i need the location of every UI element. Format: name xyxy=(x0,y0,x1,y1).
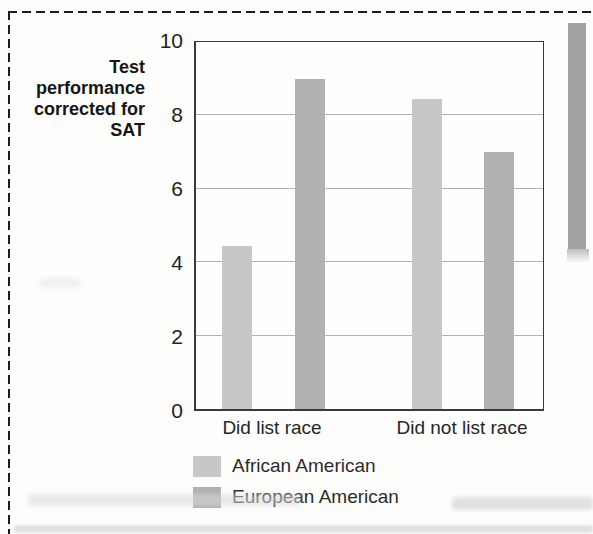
scanned-figure-page: Test performance corrected for SAT 10 8 … xyxy=(0,0,593,534)
figure-dashed-border-top xyxy=(8,11,593,13)
legend: African American European American xyxy=(193,455,399,517)
y-axis-title-line: performance xyxy=(36,78,145,98)
y-axis-title-line: SAT xyxy=(110,120,145,140)
legend-label-african-american: African American xyxy=(232,455,376,477)
page-edge-tab-strip xyxy=(568,23,586,249)
legend-swatch-european-american xyxy=(193,487,221,508)
scan-artifact xyxy=(452,497,593,510)
legend-row-african-american: African American xyxy=(193,455,399,477)
bar-african-american-did-not-list-race xyxy=(412,99,442,409)
y-axis-title-line: Test xyxy=(109,57,145,77)
gridline-8 xyxy=(196,114,543,115)
bar-african-american-did-list-race xyxy=(222,246,252,409)
x-category-label-did-list-race: Did list race xyxy=(187,417,357,439)
scan-artifact xyxy=(14,525,593,533)
figure-dashed-border-left xyxy=(8,11,10,534)
y-tick-label-0: 0 xyxy=(143,399,183,423)
scan-artifact xyxy=(40,278,80,288)
y-tick-label-2: 2 xyxy=(143,325,183,349)
legend-label-european-american: European American xyxy=(232,486,399,508)
bar-european-american-did-not-list-race xyxy=(484,152,514,409)
y-tick-label-10: 10 xyxy=(143,29,183,53)
y-tick-label-4: 4 xyxy=(143,251,183,275)
y-axis-title: Test performance corrected for SAT xyxy=(18,57,145,141)
legend-swatch-african-american xyxy=(193,456,221,477)
y-tick-label-6: 6 xyxy=(143,177,183,201)
legend-row-european-american: European American xyxy=(193,486,399,508)
y-axis-title-line: corrected for xyxy=(34,99,145,119)
y-tick-label-8: 8 xyxy=(143,103,183,127)
plot-area xyxy=(194,41,544,411)
bar-european-american-did-list-race xyxy=(295,79,325,409)
x-category-label-did-not-list-race: Did not list race xyxy=(377,417,547,439)
